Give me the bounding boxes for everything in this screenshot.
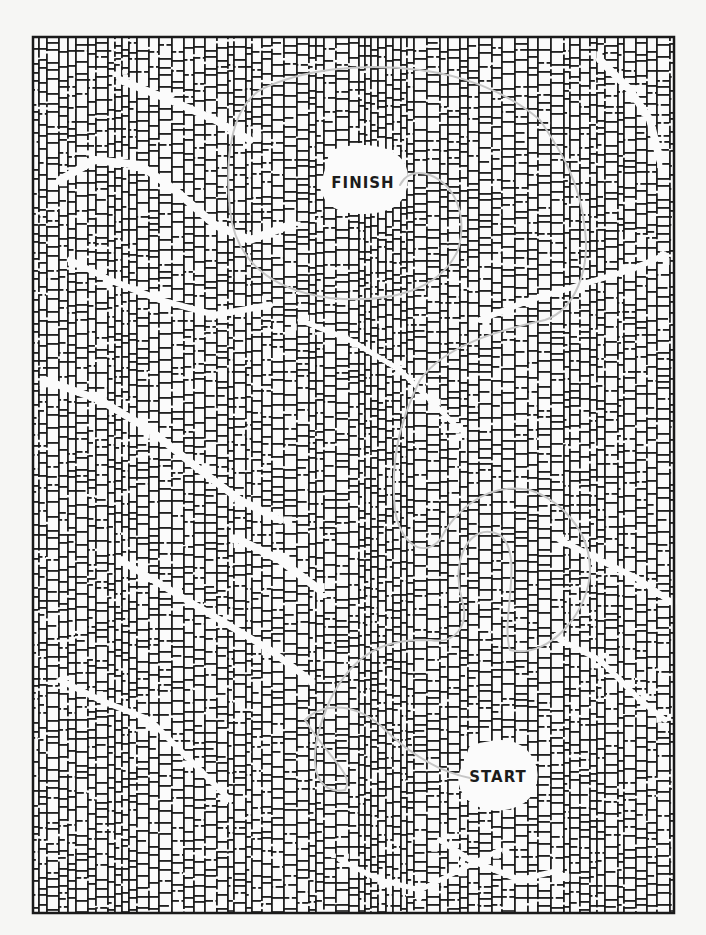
- start-label: START: [469, 768, 527, 786]
- maze-page: FINISH START: [0, 0, 706, 935]
- finish-label: FINISH: [331, 174, 394, 192]
- maze-grid: [0, 0, 706, 935]
